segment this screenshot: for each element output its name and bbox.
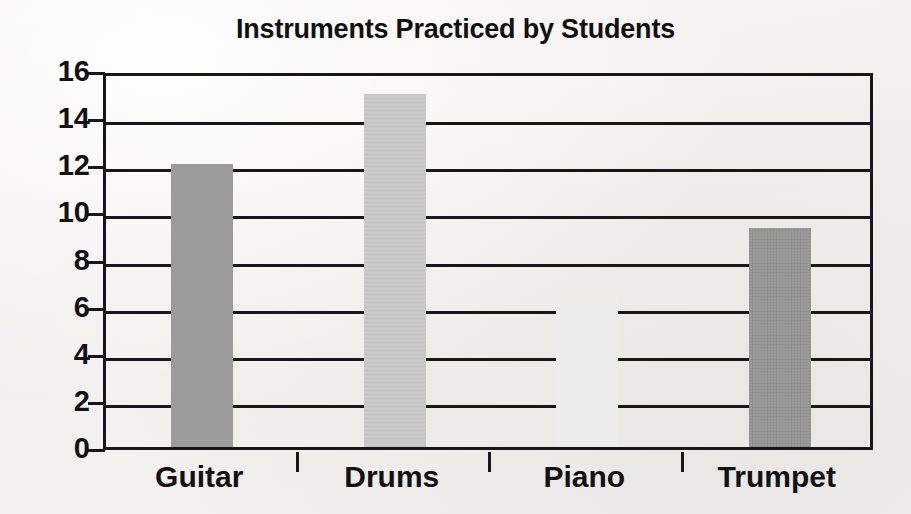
bar-guitar xyxy=(171,164,233,447)
x-axis-label-trumpet: Trumpet xyxy=(681,460,874,493)
y-axis-tick-label: 4 xyxy=(18,340,90,369)
bar-piano xyxy=(556,296,618,447)
y-axis-tick-label: 16 xyxy=(18,57,90,86)
bar-drums xyxy=(364,94,426,447)
y-axis-tick-label: 14 xyxy=(18,104,90,133)
bar-trumpet xyxy=(749,228,811,447)
y-axis-tick-label: 12 xyxy=(18,151,90,180)
x-axis-label-drums: Drums xyxy=(296,460,489,493)
y-axis-tick-label: 6 xyxy=(18,293,90,322)
y-axis-tick-label: 2 xyxy=(18,387,90,416)
bar-chart-figure: Instruments Practiced by Students 024681… xyxy=(0,0,911,514)
x-axis-label-piano: Piano xyxy=(488,460,681,493)
chart-title: Instruments Practiced by Students xyxy=(0,14,911,45)
plot-area xyxy=(103,73,873,450)
x-axis-label-guitar: Guitar xyxy=(103,460,296,493)
y-axis-tick-label: 0 xyxy=(18,434,90,463)
y-axis-tick-label: 10 xyxy=(18,198,90,227)
y-axis-tick-label: 8 xyxy=(18,246,90,275)
y-axis: 0246810121416 xyxy=(0,0,99,514)
gridline xyxy=(106,122,870,125)
